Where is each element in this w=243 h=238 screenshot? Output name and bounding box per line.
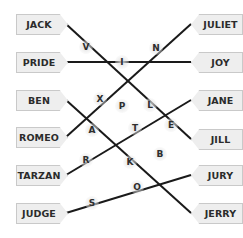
left-tag-judge[interactable]: JUDGE: [16, 203, 68, 224]
left-tag-romeo[interactable]: ROMEO: [16, 127, 68, 148]
right-tag-jill[interactable]: JILL: [191, 129, 243, 150]
right-tag-jerry[interactable]: JERRY: [191, 203, 243, 224]
letter-t: T: [128, 121, 142, 135]
letter-p: P: [115, 99, 129, 113]
right-tag-joy[interactable]: JOY: [191, 52, 243, 73]
letter-b: B: [153, 147, 167, 161]
letter-o: O: [130, 180, 144, 194]
letter-x: X: [93, 92, 107, 106]
left-tag-pride[interactable]: PRIDE: [16, 52, 68, 73]
letter-s: S: [85, 196, 99, 210]
matching-puzzle-board: JACK PRIDE BEN ROMEO TARZAN JUDGE JULIET…: [0, 0, 243, 238]
left-tag-ben[interactable]: BEN: [16, 90, 68, 111]
left-tag-tarzan[interactable]: TARZAN: [16, 165, 68, 186]
connection-lines: [0, 0, 243, 238]
letter-a: A: [85, 123, 99, 137]
letter-l: L: [143, 98, 157, 112]
letter-v: V: [79, 40, 93, 54]
line-judge-jury: [66, 175, 191, 213]
left-tag-jack[interactable]: JACK: [16, 14, 68, 35]
letter-r: R: [79, 153, 93, 167]
right-tag-juliet[interactable]: JULIET: [191, 14, 243, 35]
letter-e: E: [164, 118, 178, 132]
letter-i: I: [115, 55, 129, 69]
letter-n: N: [149, 41, 163, 55]
letter-k: K: [123, 155, 137, 169]
right-tag-jane[interactable]: JANE: [191, 90, 243, 111]
right-tag-jury[interactable]: JURY: [191, 165, 243, 186]
